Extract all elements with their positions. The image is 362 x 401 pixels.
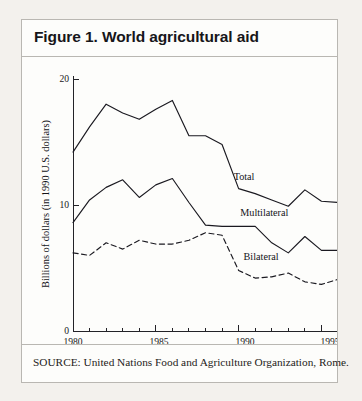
chart-series-labels: TotalMultilateralBilateral: [234, 171, 289, 263]
series-label-bilateral: Bilateral: [244, 251, 279, 262]
figure-card: Figure 1. World agricultural aid 20 10 0…: [21, 19, 338, 383]
x-tick-label-1995: 1995: [320, 336, 337, 344]
y-tick-label-0: 0: [64, 325, 69, 336]
x-tick-label-1990: 1990: [235, 336, 254, 344]
series-line-bilateral: [73, 233, 337, 285]
series-line-multilateral: [73, 179, 337, 253]
x-tick-label-1980: 1980: [63, 336, 82, 344]
y-axis-title: Billions of dollars (in 1990 U.S. dollar…: [40, 120, 52, 288]
y-tick-label-20: 20: [59, 73, 69, 84]
y-axis-tick-labels: 20 10 0: [59, 73, 69, 336]
series-label-multilateral: Multilateral: [240, 207, 288, 218]
chart-series-group: [73, 100, 337, 284]
source-note: SOURCE: United Nations Food and Agricult…: [33, 356, 349, 368]
x-axis-tick-labels: 1980 1985 1990 1995: [63, 336, 337, 344]
x-tick-label-1985: 1985: [149, 336, 168, 344]
chart-plot-area: 20 10 0 1980 1985 1990 1995 Billions of …: [22, 56, 337, 344]
chart-axes: [73, 76, 337, 331]
series-label-total: Total: [234, 171, 255, 182]
line-chart: 20 10 0 1980 1985 1990 1995 Billions of …: [22, 56, 337, 344]
y-tick-label-10: 10: [59, 199, 69, 210]
page-title: Figure 1. World agricultural aid: [34, 28, 259, 46]
series-line-total: [73, 100, 337, 206]
x-axis-ticks: [73, 325, 337, 331]
figure-title-band: Figure 1. World agricultural aid: [22, 20, 337, 56]
source-band: SOURCE: United Nations Food and Agricult…: [22, 344, 337, 382]
y-axis-ticks: [73, 79, 79, 331]
